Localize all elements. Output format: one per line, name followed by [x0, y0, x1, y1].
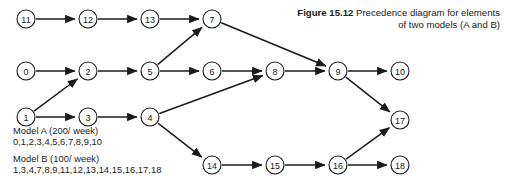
node-label: 8	[272, 67, 277, 77]
diagram-node-6: 6	[203, 62, 221, 80]
node-label: 14	[207, 161, 217, 171]
diagram-node-9: 9	[329, 62, 347, 80]
legend-model-b: Model B (100/ week) 1,3,4,7,8,9,11,12,13…	[13, 154, 161, 177]
diagram-edge	[159, 75, 262, 113]
diagram-node-3: 3	[79, 108, 97, 126]
legend-model-a-elements: 0,1,2,3,4,5,6,7,8,9,10	[13, 137, 161, 148]
diagram-node-7: 7	[203, 10, 221, 28]
diagram-edge	[158, 123, 202, 157]
diagram-node-18: 18	[391, 156, 409, 174]
diagram-node-13: 13	[141, 10, 159, 28]
node-label: 18	[395, 161, 405, 171]
node-label: 11	[21, 15, 30, 25]
node-label: 6	[209, 67, 214, 77]
diagram-node-11: 11	[17, 10, 35, 28]
figure-caption-text: Precedence diagram for elements of two m…	[353, 7, 500, 30]
figure-caption: Figure 15.12 Precedence diagram for elem…	[288, 7, 500, 31]
figure-caption-number: Figure 15.12	[297, 7, 353, 18]
node-label: 2	[85, 67, 90, 77]
diagram-node-5: 5	[141, 62, 159, 80]
legend-model-a-title: Model A (200/ week)	[13, 126, 161, 137]
node-label: 9	[335, 67, 340, 77]
node-label: 17	[395, 116, 405, 126]
node-label: 10	[395, 67, 405, 77]
node-label: 15	[270, 161, 280, 171]
node-label: 7	[209, 15, 214, 25]
diagram-edge	[346, 77, 390, 112]
node-label: 3	[85, 113, 90, 123]
node-label: 12	[83, 15, 93, 25]
legend-model-b-elements: 1,3,4,7,8,9,11,12,13,14,15,16,17,18	[13, 165, 161, 176]
node-label: 16	[333, 161, 343, 171]
legend-model-b-title: Model B (100/ week)	[13, 154, 161, 165]
diagram-edge	[34, 79, 78, 111]
diagram-node-8: 8	[266, 62, 284, 80]
figure-caption-body: Precedence diagram for elements of two m…	[356, 7, 500, 30]
diagram-node-17: 17	[391, 111, 409, 129]
diagram-node-0: 0	[17, 62, 35, 80]
diagram-node-15: 15	[266, 156, 284, 174]
diagram-node-16: 16	[329, 156, 347, 174]
diagram-node-4: 4	[141, 108, 159, 126]
node-label: 0	[23, 67, 28, 77]
node-label: 1	[23, 113, 28, 123]
diagram-node-12: 12	[79, 10, 97, 28]
diagram-node-2: 2	[79, 62, 97, 80]
node-label: 4	[147, 113, 152, 123]
legend: Model A (200/ week) 0,1,2,3,4,5,6,7,8,9,…	[13, 126, 161, 177]
legend-model-a: Model A (200/ week) 0,1,2,3,4,5,6,7,8,9,…	[13, 126, 161, 149]
diagram-edge	[158, 27, 202, 64]
diagram-edge	[346, 128, 389, 159]
figure-page: 1112137025689101341714151618 Model A (20…	[0, 0, 506, 195]
diagram-node-1: 1	[17, 108, 35, 126]
diagram-node-10: 10	[391, 62, 409, 80]
node-label: 13	[145, 15, 155, 25]
diagram-node-14: 14	[203, 156, 221, 174]
node-label: 5	[147, 67, 152, 77]
